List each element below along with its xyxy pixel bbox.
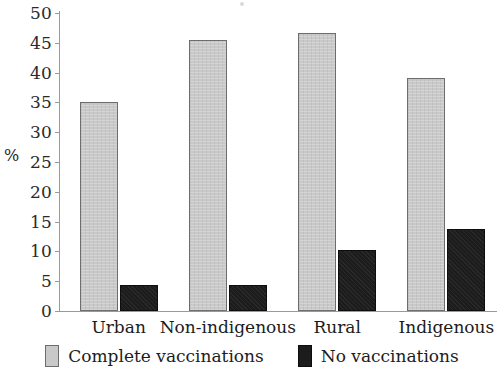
legend-item: No vaccinations [298, 345, 459, 367]
bar-complete-vaccinations [80, 102, 118, 311]
y-axis-tick-label: 35 [30, 94, 52, 111]
chart-legend: Complete vaccinationsNo vaccinations [0, 345, 504, 367]
y-axis-tick-mark [55, 311, 60, 312]
y-axis-tick-mark [55, 222, 60, 223]
legend-item-label: Complete vaccinations [68, 346, 264, 366]
y-axis-tick-mark [55, 132, 60, 133]
y-axis-tick-label: 30 [30, 124, 52, 141]
y-axis-tick-mark [55, 162, 60, 163]
bar-complete-vaccinations [298, 33, 336, 311]
bar-no-vaccinations [447, 229, 485, 311]
y-axis-tick-label: 15 [30, 213, 52, 230]
x-axis-category-label: Urban [91, 317, 145, 337]
y-axis-tick-label: 20 [30, 183, 52, 200]
y-axis-tick-mark [55, 192, 60, 193]
y-axis-tick-label: 25 [30, 154, 52, 171]
bar-complete-vaccinations [407, 78, 445, 311]
x-axis-line [59, 311, 497, 312]
y-axis-title: % [4, 146, 19, 165]
legend-swatch-complete [45, 345, 59, 367]
y-axis-tick-label: 45 [30, 34, 52, 51]
bar-chart-figure: % 50454035302520151050 UrbanNon-indigeno… [0, 0, 504, 377]
y-axis-tick-mark [55, 73, 60, 74]
legend-swatch-none [298, 345, 312, 367]
x-axis-category-label: Indigenous [398, 317, 494, 337]
y-axis-tick-mark [55, 102, 60, 103]
plot-area: 50454035302520151050 [60, 13, 497, 311]
y-axis-tick-label: 0 [41, 303, 52, 320]
bar-no-vaccinations [229, 285, 267, 311]
bar-group [189, 13, 267, 311]
bar-group [80, 13, 158, 311]
bar-no-vaccinations [338, 250, 376, 311]
y-axis-tick-label: 10 [30, 243, 52, 260]
bar-no-vaccinations [120, 285, 158, 311]
y-axis-tick-mark [55, 251, 60, 252]
y-axis-tick-label: 50 [30, 5, 52, 22]
y-axis-tick-mark [55, 13, 60, 14]
x-axis-category-label: Non-indigenous [160, 317, 296, 337]
x-axis-category-label: Rural [313, 317, 360, 337]
legend-item-label: No vaccinations [321, 346, 459, 366]
y-axis-tick-label: 5 [41, 273, 52, 290]
bar-group [407, 13, 485, 311]
y-axis-tick-mark [55, 43, 60, 44]
y-axis-tick-label: 40 [30, 64, 52, 81]
bar-complete-vaccinations [189, 40, 227, 311]
legend-item: Complete vaccinations [45, 345, 264, 367]
scan-artifact-speck [240, 2, 244, 6]
y-axis-tick-mark [55, 281, 60, 282]
bar-group [298, 13, 376, 311]
